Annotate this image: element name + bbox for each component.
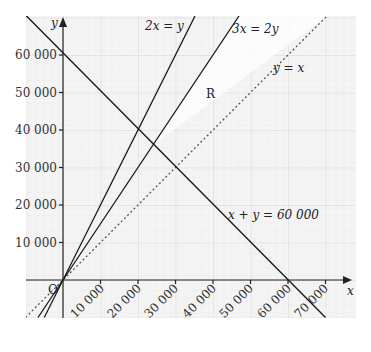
origin-label: O — [48, 283, 58, 297]
y-tick-label: 40 000 — [15, 123, 57, 137]
y-tick-label: 20 000 — [15, 198, 57, 212]
label-y-equals-x: y = x — [272, 61, 304, 75]
y-tick-label: 50 000 — [15, 86, 57, 100]
y-tick-label: 10 000 — [15, 236, 57, 250]
y-tick-label: 30 000 — [15, 161, 57, 175]
label-2x-equals-y: 2x = y — [144, 19, 184, 33]
y-tick-label: 60 000 — [15, 48, 57, 62]
plot-area — [26, 16, 356, 318]
chart: 10 000 20 000 30 000 40 000 50 000 60 00… — [0, 0, 371, 352]
x-axis-label: x — [347, 284, 354, 298]
y-axis-label: y — [50, 16, 58, 30]
label-3x-equals-2y: 3x = 2y — [232, 22, 279, 36]
label-x-plus-y: x + y = 60 000 — [228, 208, 319, 222]
region-label-r: R — [206, 87, 216, 101]
